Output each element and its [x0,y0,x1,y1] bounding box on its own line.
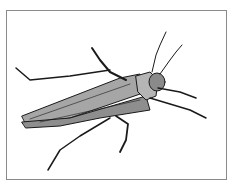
mid-leg-right [150,98,206,118]
hind-leg-upper-tibia [16,68,110,80]
hind-leg-upper-femur [92,48,126,80]
hind-leg-lower [116,116,128,152]
front-leg-right [158,88,196,98]
insect-illustration [0,0,232,185]
antenna-left [152,32,166,72]
antenna-right [160,45,182,74]
